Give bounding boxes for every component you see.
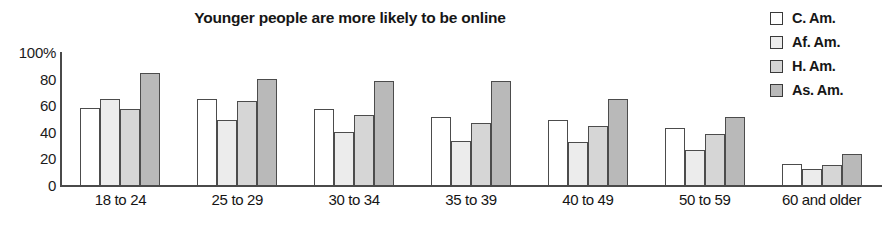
legend-swatch-icon (770, 36, 783, 49)
bar-group (296, 52, 413, 185)
bar[interactable] (451, 141, 471, 185)
bar[interactable] (100, 99, 120, 185)
x-axis-label: 25 to 29 (179, 191, 296, 221)
y-tick-40: 40 (4, 123, 56, 140)
bar[interactable] (431, 117, 451, 185)
bar[interactable] (374, 81, 394, 185)
bar[interactable] (685, 150, 705, 185)
bar[interactable] (568, 142, 588, 185)
x-axis-label: 35 to 39 (413, 191, 530, 221)
y-tick-60: 60 (4, 97, 56, 114)
bar[interactable] (822, 165, 842, 185)
x-axis-label: 18 to 24 (62, 191, 179, 221)
bar[interactable] (802, 169, 822, 185)
legend-label: C. Am. (792, 10, 836, 26)
bar-group (179, 52, 296, 185)
bar[interactable] (588, 126, 608, 185)
bar[interactable] (471, 123, 491, 186)
bar[interactable] (705, 134, 725, 185)
bar[interactable] (197, 99, 217, 185)
bar[interactable] (491, 81, 511, 185)
bar[interactable] (140, 73, 160, 185)
y-tick-0: 0 (4, 177, 56, 194)
bar[interactable] (608, 99, 628, 185)
x-axis-label: 40 to 49 (529, 191, 646, 221)
bar-group (646, 52, 763, 185)
bar[interactable] (725, 117, 745, 185)
bar-group (529, 52, 646, 185)
bar[interactable] (80, 108, 100, 185)
legend-swatch-icon (770, 12, 783, 25)
bar[interactable] (237, 101, 257, 185)
y-tick-100: 100% (4, 44, 56, 61)
x-axis-labels: 18 to 2425 to 2930 to 3435 to 3940 to 49… (62, 191, 880, 221)
bar-group (763, 52, 880, 185)
chart-title: Younger people are more likely to be onl… (0, 9, 700, 27)
legend-item-c-am[interactable]: C. Am. (770, 6, 886, 30)
x-axis-label: 60 and older (763, 191, 880, 221)
bar[interactable] (354, 115, 374, 185)
bar[interactable] (314, 109, 334, 185)
bar-group (62, 52, 179, 185)
y-tick-20: 20 (4, 150, 56, 167)
y-tick-80: 80 (4, 70, 56, 87)
chart-canvas: Younger people are more likely to be onl… (0, 0, 886, 244)
legend-label: Af. Am. (792, 34, 840, 50)
bar-groups (62, 52, 880, 185)
bar[interactable] (257, 79, 277, 185)
bar[interactable] (665, 128, 685, 185)
bar[interactable] (217, 120, 237, 185)
x-axis-label: 30 to 34 (296, 191, 413, 221)
x-axis-line (60, 185, 882, 187)
legend-item-af-am[interactable]: Af. Am. (770, 30, 886, 54)
bar[interactable] (548, 120, 568, 185)
bar[interactable] (842, 154, 862, 185)
x-axis-label: 50 to 59 (646, 191, 763, 221)
bar[interactable] (782, 164, 802, 185)
y-axis-ticks: 100% 80 60 40 20 0 (0, 0, 56, 244)
bar[interactable] (334, 132, 354, 185)
bar-group (413, 52, 530, 185)
bar[interactable] (120, 109, 140, 185)
